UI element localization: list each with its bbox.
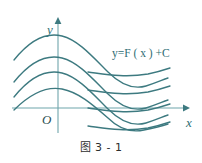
curve-equation-annotation: y=F ( x ) +C bbox=[112, 47, 170, 60]
curve-c3 bbox=[14, 72, 168, 124]
figure-caption: 图 3 - 1 bbox=[0, 138, 202, 154]
y-axis-arrow-icon bbox=[55, 17, 62, 24]
x-axis-label: x bbox=[185, 115, 192, 130]
curve-tail-group bbox=[88, 68, 170, 130]
y-axis-label: y bbox=[45, 22, 53, 37]
curve-c2 bbox=[14, 57, 168, 109]
x-axis-arrow-icon bbox=[183, 104, 190, 111]
origin-label: O bbox=[42, 112, 52, 127]
curve-tail-1 bbox=[88, 68, 170, 76]
figure-container: y x O y=F ( x ) +C 图 3 - 1 bbox=[0, 0, 202, 163]
curve-c4 bbox=[14, 88, 168, 130]
